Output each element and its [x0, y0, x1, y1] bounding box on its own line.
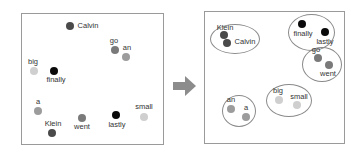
word-dot-calvin-after: [223, 39, 231, 47]
word-label-calvin-after: Calvin: [235, 38, 256, 46]
word-dot-go-after: [314, 54, 322, 62]
word-label-go: go: [110, 37, 118, 45]
word-dot-lastly-after: [321, 28, 329, 36]
word-label-big: big: [28, 58, 38, 66]
word-dot-an: [122, 53, 130, 61]
word-label-go-after: go: [312, 46, 320, 54]
word-dot-went: [78, 114, 86, 122]
word-dot-calvin: [66, 22, 74, 30]
word-label-big-after: big: [273, 87, 283, 95]
word-dot-finally-after: [298, 20, 306, 28]
word-label-small-after: small: [290, 93, 308, 101]
word-label-an-after: an: [227, 96, 235, 104]
word-label-finally: finally: [46, 76, 65, 84]
word-label-went: went: [74, 123, 90, 131]
word-dot-a-after: [242, 113, 250, 121]
before-panel: [21, 13, 164, 145]
word-label-finally-after: finally: [293, 30, 312, 38]
word-dot-finally: [50, 67, 58, 75]
word-dot-lastly: [112, 111, 120, 119]
word-dot-small-after: [293, 101, 301, 109]
word-label-lastly: lastly: [108, 121, 125, 129]
word-label-small: small: [135, 103, 153, 111]
arrow-right-icon: [173, 76, 197, 96]
word-dot-klein: [48, 129, 56, 137]
word-dot-small: [140, 113, 148, 121]
word-dot-an-after: [227, 105, 235, 113]
word-label-an: an: [123, 44, 131, 52]
word-dot-big: [30, 67, 38, 75]
word-label-calvin: Calvin: [78, 22, 99, 30]
word-dot-went-after: [325, 61, 333, 69]
word-label-klein-after: Klein: [217, 24, 234, 32]
word-label-a-after: a: [244, 104, 248, 112]
word-label-a: a: [36, 98, 40, 106]
word-label-went-after: went: [320, 70, 336, 78]
word-dot-a: [34, 107, 42, 115]
word-dot-big-after: [275, 96, 283, 104]
word-label-klein: Klein: [45, 120, 62, 128]
word-dot-go: [111, 46, 119, 54]
